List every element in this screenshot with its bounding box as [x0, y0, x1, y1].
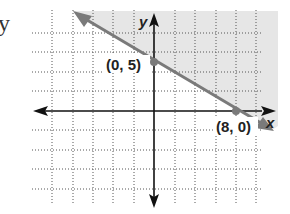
point-label-8-0: (8, 0) [216, 118, 251, 135]
point-8-0 [232, 107, 240, 115]
point-0-5 [150, 58, 158, 66]
coordinate-plane: (0, 5) (8, 0) y x [0, 0, 290, 214]
x-axis-label: x [265, 114, 275, 131]
point-label-0-5: (0, 5) [106, 56, 141, 73]
y-axis-label: y [138, 13, 148, 30]
graph-figure: y [0, 0, 290, 214]
